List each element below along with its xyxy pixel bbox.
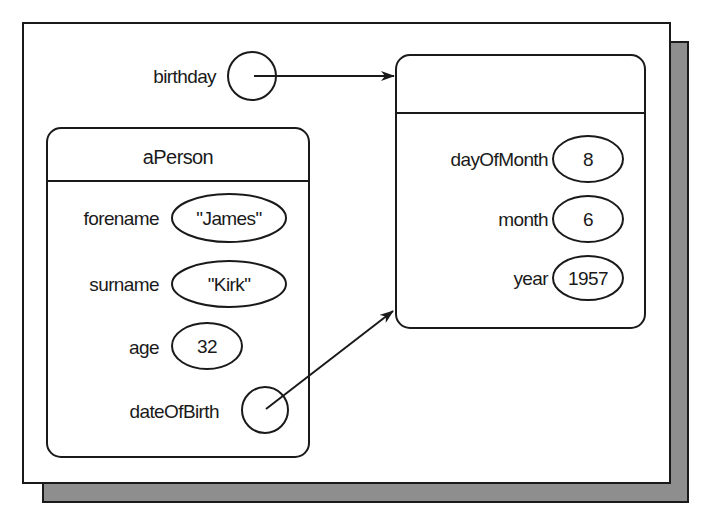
field-label: year [513, 268, 549, 289]
field-label: forename [84, 208, 160, 229]
object-diagram: birthday aPerson forename "James" surnam… [0, 0, 703, 521]
field-label: dateOfBirth [129, 401, 219, 422]
date-object-box: dayOfMonth 8 month 6 year 1957 [396, 55, 645, 328]
object-title: aPerson [143, 146, 213, 168]
field-value: 32 [197, 336, 217, 357]
field-value: 6 [583, 209, 593, 230]
field-label: surname [89, 274, 159, 295]
field-label: month [498, 209, 548, 230]
field-label: age [129, 337, 159, 358]
variable-label: birthday [153, 66, 217, 87]
field-value: "Kirk" [208, 274, 251, 295]
field-value: 8 [583, 149, 593, 170]
field-value: "James" [196, 208, 261, 229]
person-object-box: aPerson forename "James" surname "Kirk" … [47, 128, 309, 457]
field-value: 1957 [568, 268, 608, 289]
field-label: dayOfMonth [451, 149, 549, 170]
